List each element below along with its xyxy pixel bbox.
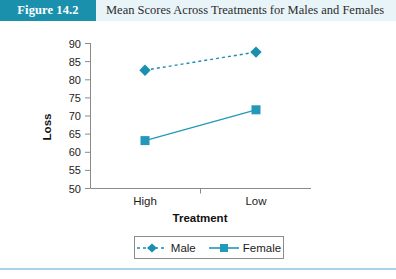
figure-container: Figure 14.2 Mean Scores Across Treatment… [0,0,396,279]
y-tick-label: 75 [69,92,81,104]
series-female [141,105,261,145]
series-male [139,46,261,76]
y-tick-label: 85 [69,56,81,68]
series-male-point-low [250,46,261,57]
y-tick-label: 55 [69,164,81,176]
y-tick-label: 90 [69,38,81,50]
y-tick-label: 60 [69,146,81,158]
legend-label-female: Female [243,242,281,254]
figure-number-label: Figure 14.2 [17,3,78,18]
series-male-point-high [139,65,150,76]
figure-number-badge: Figure 14.2 [0,0,96,21]
footer-divider [0,268,396,270]
y-tick-label: 80 [69,74,81,86]
legend-female-marker-icon [209,242,239,254]
y-tick-label: 50 [69,183,81,195]
x-category-label-low: Low [245,195,267,207]
legend-item-female: Female [209,242,281,254]
series-female-point-low [252,105,261,114]
figure-header: Figure 14.2 Mean Scores Across Treatment… [0,0,396,21]
y-axis-tick-labels: 90 85 80 75 70 65 60 55 50 [69,38,81,195]
line-chart-svg: 90 85 80 75 70 65 60 55 50 Loss High Low… [0,21,396,233]
series-male-line [145,52,256,70]
series-female-line [145,110,256,141]
chart-plot-area: 90 85 80 75 70 65 60 55 50 Loss High Low… [0,21,396,233]
legend-male-marker-icon [137,242,167,254]
x-category-label-high: High [133,195,157,207]
y-tick-label: 65 [69,128,81,140]
x-axis-title: Treatment [173,212,228,224]
chart-legend: Male Female [134,236,284,259]
legend-label-male: Male [171,242,196,254]
y-tick-label: 70 [69,110,81,122]
y-axis-ticks [85,44,90,189]
series-female-point-high [141,136,150,145]
figure-caption: Mean Scores Across Treatments for Males … [106,0,384,21]
legend-item-male: Male [137,242,196,254]
y-axis-title: Loss [41,114,53,141]
